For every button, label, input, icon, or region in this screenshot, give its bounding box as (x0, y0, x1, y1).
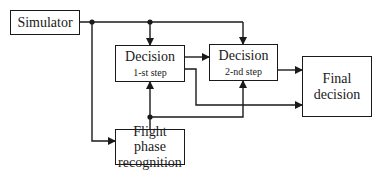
decision-2nd-step-block: Decision 2-nd step (209, 44, 278, 81)
junction-dot (147, 19, 152, 24)
final-label-line1: Final (323, 71, 352, 86)
decision1-sublabel: 1-st step (133, 67, 167, 78)
junction-dot (89, 19, 94, 24)
decision-1st-step-block: Decision 1-st step (115, 45, 185, 82)
flight-label-line2: recognition (118, 155, 182, 170)
final-label-line2: decision (314, 87, 361, 102)
flight-label-line1: Flight phase (116, 124, 184, 155)
junction-dot (147, 114, 152, 119)
flight-phase-recognition-block: Flight phase recognition (115, 129, 185, 165)
decision2-label: Decision (219, 48, 269, 63)
decision1-label: Decision (125, 49, 175, 64)
simulator-block: Simulator (10, 10, 80, 35)
simulator-label: Simulator (17, 15, 72, 30)
wire-sim-to-flight (92, 22, 115, 141)
final-decision-block: Final decision (302, 56, 372, 117)
decision2-sublabel: 2-nd step (225, 66, 262, 77)
